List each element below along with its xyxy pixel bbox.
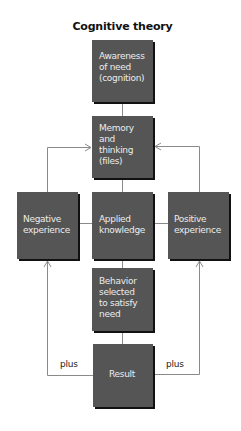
- node-label: Awareness of need (cognition): [99, 51, 145, 84]
- node-label: Negative experience: [23, 214, 70, 236]
- edge-label-left-plus: plus: [60, 359, 78, 369]
- node-memory-and-thinking: Memory and thinking (files): [92, 116, 153, 178]
- arrow-positive-to-memory: [155, 147, 200, 193]
- node-applied-knowledge: Applied knowledge: [92, 192, 153, 259]
- edge-label-right-plus: plus: [166, 359, 184, 369]
- node-label: Memory and thinking (files): [99, 123, 134, 167]
- node-result: Result: [93, 344, 153, 407]
- node-positive-experience: Positive experience: [168, 192, 229, 259]
- node-awareness-of-need: Awareness of need (cognition): [92, 40, 153, 102]
- node-negative-experience: Negative experience: [17, 192, 78, 259]
- arrow-negative-to-memory: [48, 148, 92, 193]
- node-label: Behavior selected to satisfy need: [99, 276, 137, 320]
- node-label: Result: [109, 369, 135, 380]
- node-label: Applied knowledge: [99, 214, 145, 236]
- node-label: Positive experience: [174, 214, 221, 236]
- node-behavior-selected: Behavior selected to satisfy need: [92, 268, 153, 331]
- arrow-result-to-positive: [155, 261, 200, 375]
